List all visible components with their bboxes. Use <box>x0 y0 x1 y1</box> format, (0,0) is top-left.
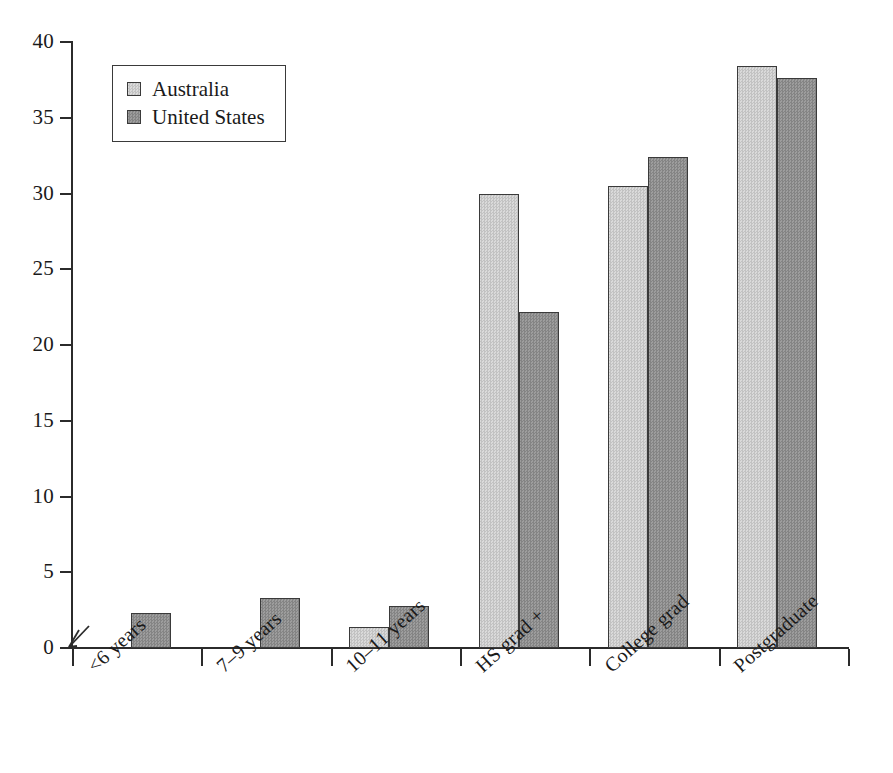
bar <box>777 78 817 648</box>
y-axis-tick <box>60 647 71 649</box>
legend-swatch-icon <box>127 110 141 124</box>
y-axis-tick-label: 20 <box>18 334 54 355</box>
y-axis-tick-label: 10 <box>18 486 54 507</box>
x-axis-tick <box>201 649 203 666</box>
y-axis-tick-label: 35 <box>18 107 54 128</box>
x-axis-tick <box>848 649 850 666</box>
legend-swatch-icon <box>127 82 141 96</box>
x-axis-tick <box>719 649 721 666</box>
y-axis-tick-label: 25 <box>18 258 54 279</box>
y-axis-tick <box>60 268 71 270</box>
bar-chart-figure: 0510152025303540 <6 years7–9 years10–11 … <box>0 0 893 773</box>
y-axis-tick-label: 15 <box>18 410 54 431</box>
x-axis-tick <box>72 649 74 666</box>
y-axis-tick <box>60 496 71 498</box>
y-axis-tick <box>60 344 71 346</box>
x-axis-tick <box>331 649 333 666</box>
x-axis-tick <box>460 649 462 666</box>
y-axis-tick-label: 30 <box>18 183 54 204</box>
y-axis-tick <box>60 117 71 119</box>
y-axis-tick <box>60 571 71 573</box>
legend-label: United States <box>152 107 265 128</box>
y-axis-tick <box>60 41 71 43</box>
bar <box>737 66 777 648</box>
y-axis-tick-label: 0 <box>18 637 54 658</box>
bar <box>608 186 648 648</box>
x-axis-tick <box>589 649 591 666</box>
bar <box>519 312 559 648</box>
legend-label: Australia <box>152 79 229 100</box>
y-axis-tick <box>60 420 71 422</box>
legend-item: Australia <box>127 75 265 103</box>
legend-item: United States <box>127 103 265 131</box>
y-axis-tick <box>60 193 71 195</box>
y-axis-tick-label: 40 <box>18 31 54 52</box>
y-axis-tick-label: 5 <box>18 561 54 582</box>
bar <box>648 157 688 648</box>
bar <box>479 194 519 649</box>
legend: AustraliaUnited States <box>112 65 286 142</box>
